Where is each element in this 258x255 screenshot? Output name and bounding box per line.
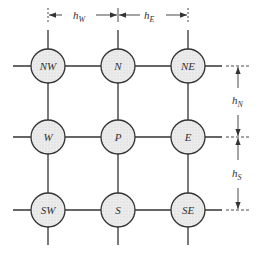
node-se: SE (171, 193, 205, 227)
label-he: hE (144, 9, 155, 24)
svg-text:S: S (115, 204, 121, 216)
node-n: N (101, 49, 135, 83)
svg-text:W: W (43, 131, 53, 143)
svg-text:N: N (113, 60, 122, 72)
svg-text:SE: SE (182, 204, 195, 216)
label-hs: hS (232, 167, 242, 182)
label-hn: hN (232, 94, 244, 109)
node-s: S (101, 193, 135, 227)
node-ne: NE (171, 49, 205, 83)
horizontal-dimensions (48, 8, 188, 22)
svg-text:NW: NW (39, 60, 57, 72)
grid-stencil-diagram: hW hE hN hS NW N NE W P E SW S SE (0, 0, 258, 255)
node-nw: NW (31, 49, 65, 83)
svg-text:NE: NE (180, 60, 195, 72)
node-e: E (171, 120, 205, 154)
label-hw: hW (73, 9, 87, 24)
vertical-dimensions (226, 66, 250, 210)
svg-text:P: P (114, 131, 122, 143)
node-sw: SW (31, 193, 65, 227)
node-p: P (101, 120, 135, 154)
node-w: W (31, 120, 65, 154)
svg-text:SW: SW (41, 204, 57, 216)
svg-text:E: E (184, 131, 192, 143)
